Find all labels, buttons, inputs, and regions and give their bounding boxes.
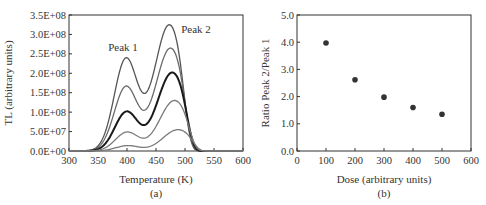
peak-2-annotation: Peak 2: [181, 23, 211, 35]
panel-a-curves: [69, 25, 243, 151]
panel-a-x-tick-label: 400: [119, 155, 135, 166]
panel-b-x-axis-label: Dose (arbitrary units): [337, 173, 432, 186]
panel-b-y-tick-label: 2.0: [281, 91, 294, 102]
data-point: [439, 111, 445, 117]
panel-b-x-tick-label: 300: [376, 155, 392, 166]
panel-b-y-tick-label: 0.0: [281, 146, 294, 157]
glow-curve-1: [69, 25, 243, 151]
panel-b-y-tick-label: 5.0: [281, 10, 294, 21]
figure: 0.0E+005.0E+071.0E+081.5E+082.0E+082.5E+…: [0, 0, 486, 205]
peak-1-annotation: Peak 1: [108, 41, 138, 53]
panel-a-y-tick-label: 3.0E+08: [30, 29, 66, 40]
panel-a-x-axis-label: Temperature (K): [119, 173, 193, 186]
panel-a-x-tick-label: 600: [235, 155, 251, 166]
data-point: [381, 94, 387, 100]
panel-b-x-tick-label: 0: [294, 155, 299, 166]
panel-b-x-tick-label: 200: [347, 155, 363, 166]
panel-b-y-tick-label: 1.0: [281, 118, 294, 129]
panel-b-x-tick-label: 400: [405, 155, 421, 166]
panel-b-x-tick-label: 500: [434, 155, 450, 166]
panel-a-x-tick-label: 300: [61, 155, 77, 166]
panel-a-y-tick-label: 5.0E+07: [30, 126, 66, 137]
panel-b-data-points: [323, 40, 445, 117]
panel-a-y-axis-label: TL (arbitrary units): [2, 40, 15, 125]
panel-b-y-axis-label: Ratio Peak 2/Peak 1: [259, 39, 271, 128]
panel-a-y-tick-label: 2.0E+08: [30, 68, 66, 79]
panel-b-ratio-scatter: 0.01.02.03.04.05.0 0100200300400500600 D…: [259, 10, 479, 201]
panel-a-x-tick-label: 350: [90, 155, 106, 166]
data-point: [323, 40, 329, 46]
panel-a-caption: (a): [150, 187, 163, 200]
panel-b-plot-frame: [297, 15, 471, 151]
panel-a-x-tick-label: 450: [148, 155, 164, 166]
data-point: [352, 77, 358, 83]
panel-a-y-tick-label: 1.0E+08: [30, 107, 66, 118]
panel-a-y-axis: 0.0E+005.0E+071.0E+081.5E+082.0E+082.5E+…: [30, 10, 72, 157]
panel-a-x-tick-label: 550: [206, 155, 222, 166]
panel-b-x-tick-label: 600: [463, 155, 479, 166]
data-point: [410, 105, 416, 111]
panel-b-caption: (b): [378, 187, 391, 200]
panel-a-y-tick-label: 1.5E+08: [30, 87, 66, 98]
panel-b-y-tick-label: 4.0: [281, 37, 294, 48]
panel-a-y-tick-label: 2.5E+08: [30, 48, 66, 59]
panel-a-tl-glow-curves: 0.0E+005.0E+071.0E+081.5E+082.0E+082.5E+…: [2, 10, 251, 201]
panel-a-y-tick-label: 3.5E+08: [30, 10, 66, 21]
panel-b-y-tick-label: 3.0: [281, 64, 294, 75]
panel-b-x-tick-label: 100: [318, 155, 334, 166]
panel-a-x-tick-label: 500: [177, 155, 193, 166]
